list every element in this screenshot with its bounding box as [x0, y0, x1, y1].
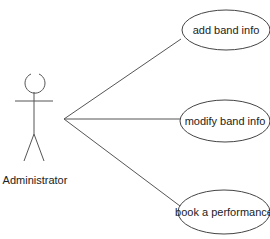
use-case-modify-band-info[interactable]: modify band info — [180, 100, 270, 142]
use-case-label: book a performance — [175, 206, 270, 218]
use-case-diagram: Administrator add band info modify band … — [0, 0, 270, 239]
actor-right-leg — [34, 134, 44, 161]
use-case-book-a-performance[interactable]: book a performance — [175, 190, 270, 234]
use-case-label: add band info — [193, 24, 260, 36]
actor-head — [25, 74, 45, 93]
association-book-a-performance[interactable] — [64, 119, 184, 209]
use-case-add-band-info[interactable]: add band info — [182, 10, 270, 50]
actor-administrator[interactable]: Administrator — [3, 74, 68, 186]
use-case-label: modify band info — [185, 115, 266, 127]
stick-figure-icon — [15, 74, 53, 161]
actor-label: Administrator — [3, 174, 68, 186]
actor-left-leg — [24, 134, 34, 161]
association-add-band-info[interactable] — [64, 39, 181, 119]
